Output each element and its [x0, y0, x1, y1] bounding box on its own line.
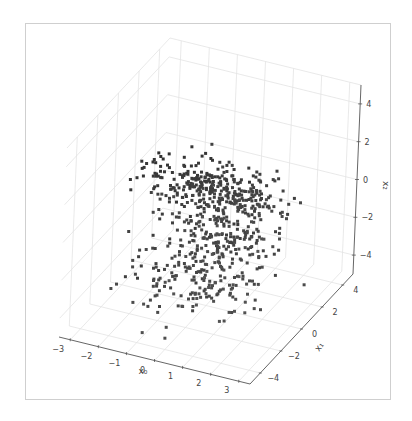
data-point [186, 183, 189, 186]
data-point [244, 246, 247, 249]
data-point [178, 250, 181, 253]
data-point [175, 216, 178, 219]
data-point [251, 280, 254, 283]
data-point [195, 260, 198, 263]
data-point [152, 175, 155, 178]
data-point [217, 207, 220, 210]
data-point [267, 205, 270, 208]
data-point [183, 220, 186, 223]
data-point [172, 195, 175, 198]
data-point [175, 201, 178, 204]
data-point [221, 198, 224, 201]
data-point [204, 288, 207, 291]
data-point [299, 201, 302, 204]
data-point [196, 174, 199, 177]
data-point [217, 241, 220, 244]
data-point [211, 266, 214, 269]
x1-tick-label: −2 [288, 352, 300, 361]
data-point [228, 311, 231, 314]
data-point [207, 205, 210, 208]
data-point [262, 249, 265, 252]
data-point [189, 215, 192, 218]
data-point [248, 190, 251, 193]
data-point [131, 259, 134, 262]
data-point [200, 171, 203, 174]
data-point [254, 199, 257, 202]
data-point [191, 183, 194, 186]
data-point [185, 270, 188, 273]
pane-edge [170, 38, 361, 85]
tick-labels: −3−2−10123−4−2024−4−2024x₀x₁x₂ [52, 100, 391, 395]
data-point [259, 190, 262, 193]
data-point [214, 189, 217, 192]
data-point [129, 188, 132, 191]
data-point [137, 255, 140, 258]
data-point [278, 227, 281, 230]
data-point [246, 293, 249, 296]
data-point [191, 257, 194, 260]
data-point [183, 262, 186, 265]
data-point [258, 194, 261, 197]
data-point [160, 193, 163, 196]
data-point [244, 190, 247, 193]
data-point [261, 266, 264, 269]
data-point [172, 186, 175, 189]
data-point [228, 266, 231, 269]
data-point [159, 176, 162, 179]
x2-tick-label: −4 [360, 251, 372, 260]
data-point [196, 247, 199, 250]
x0-tick-label: −2 [80, 352, 92, 361]
data-point [273, 253, 276, 256]
data-point [208, 295, 211, 298]
data-point [159, 165, 162, 168]
data-point [181, 196, 184, 199]
data-point [134, 273, 137, 276]
data-point [226, 240, 229, 243]
data-point [211, 159, 214, 162]
data-point [192, 297, 195, 300]
data-point [257, 255, 260, 258]
data-point [250, 199, 253, 202]
data-point [223, 276, 226, 279]
data-point [202, 259, 205, 262]
x2-tick-label: −2 [361, 213, 373, 222]
data-point [183, 156, 186, 159]
data-point [230, 288, 233, 291]
data-point [205, 263, 208, 266]
data-point [198, 292, 201, 295]
data-point [204, 152, 207, 155]
data-point [194, 227, 197, 230]
data-point [115, 283, 118, 286]
data-point [223, 320, 226, 323]
data-point [192, 178, 195, 181]
data-point [181, 176, 184, 179]
data-point [242, 199, 245, 202]
data-point [159, 277, 162, 280]
data-point [154, 161, 157, 164]
data-point [149, 299, 152, 302]
data-point [165, 326, 168, 329]
data-point [223, 177, 226, 180]
data-point [191, 305, 194, 308]
data-point [204, 176, 207, 179]
data-point [169, 286, 172, 289]
scatter3d-plot[interactable]: −3−2−10123−4−2024−4−2024x₀x₁x₂ [26, 24, 392, 401]
grid-line [63, 133, 166, 243]
data-point [224, 194, 227, 197]
data-point [221, 166, 224, 169]
data-point [176, 194, 179, 197]
data-point [196, 244, 199, 247]
data-point [249, 187, 252, 190]
data-point [184, 255, 187, 258]
data-point [140, 265, 143, 268]
data-point [251, 190, 254, 193]
data-point [208, 173, 211, 176]
data-point [191, 194, 194, 197]
grid-line [131, 260, 322, 307]
data-point [181, 305, 184, 308]
data-point [287, 203, 290, 206]
data-point [269, 195, 272, 198]
x1-tick-label: −4 [267, 374, 279, 383]
data-point [140, 160, 143, 163]
data-point [177, 264, 180, 267]
